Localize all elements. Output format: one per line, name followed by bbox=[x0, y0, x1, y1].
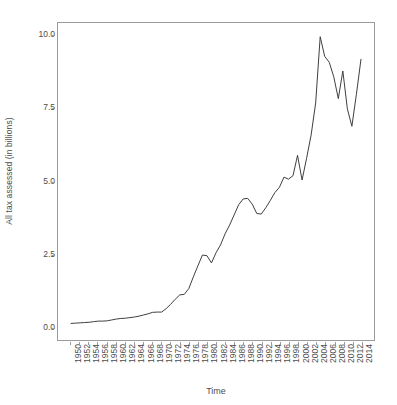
x-tick-mark bbox=[353, 342, 354, 345]
x-tick-mark bbox=[225, 342, 226, 345]
y-axis-title: All tax assessed (in billions) bbox=[0, 0, 18, 341]
x-tick-mark bbox=[216, 342, 217, 345]
y-axis-tick-labels: 0.02.55.07.510.0 bbox=[18, 0, 55, 341]
x-tick-mark bbox=[243, 342, 244, 345]
x-tick-mark bbox=[252, 342, 253, 345]
y-tick-mark bbox=[52, 182, 55, 183]
x-tick-mark bbox=[280, 342, 281, 345]
x-tick-mark bbox=[262, 342, 263, 345]
x-tick-mark bbox=[79, 342, 80, 345]
data-series-line bbox=[71, 37, 361, 324]
y-tick-mark bbox=[52, 108, 55, 109]
x-tick-mark bbox=[152, 342, 153, 345]
x-tick-label: 1950 bbox=[74, 344, 83, 363]
line-chart-svg bbox=[58, 23, 374, 340]
x-axis-tick-labels: 1950195219541956195819601962196419661968… bbox=[57, 342, 375, 384]
x-tick-mark bbox=[125, 342, 126, 345]
y-tick-label: 2.5 bbox=[21, 250, 55, 259]
x-tick-mark bbox=[271, 342, 272, 345]
y-tick-label: 0.0 bbox=[21, 323, 55, 332]
x-tick-label: 1968 bbox=[156, 344, 165, 363]
x-tick-label: 1964 bbox=[137, 344, 146, 363]
x-tick-mark bbox=[189, 342, 190, 345]
y-tick-mark bbox=[52, 328, 55, 329]
x-tick-mark bbox=[134, 342, 135, 345]
x-tick-mark bbox=[143, 342, 144, 345]
y-axis-title-label: All tax assessed (in billions) bbox=[4, 117, 14, 224]
x-tick-label: 2002 bbox=[311, 344, 320, 363]
x-tick-label: 1998 bbox=[292, 344, 301, 363]
x-tick-label: 1966 bbox=[147, 344, 156, 363]
y-tick-label: 5.0 bbox=[21, 177, 55, 186]
y-tick-label: 10.0 bbox=[21, 30, 55, 39]
x-tick-mark bbox=[170, 342, 171, 345]
x-tick-mark bbox=[289, 342, 290, 345]
x-tick-mark bbox=[325, 342, 326, 345]
x-tick-mark bbox=[198, 342, 199, 345]
y-tick-mark bbox=[52, 35, 55, 36]
x-tick-mark bbox=[88, 342, 89, 345]
x-tick-label: 2004 bbox=[320, 344, 329, 363]
x-tick-mark bbox=[316, 342, 317, 345]
x-tick-label: 2014 bbox=[365, 344, 374, 363]
x-tick-mark bbox=[362, 342, 363, 345]
y-tick-mark bbox=[52, 255, 55, 256]
x-tick-label: 1986 bbox=[238, 344, 247, 363]
x-tick-mark bbox=[344, 342, 345, 345]
chart-figure: All tax assessed (in billions) 0.02.55.0… bbox=[0, 0, 397, 405]
x-tick-mark bbox=[298, 342, 299, 345]
x-tick-mark bbox=[97, 342, 98, 345]
x-tick-mark bbox=[307, 342, 308, 345]
x-tick-label: 1984 bbox=[229, 344, 238, 363]
x-tick-label: 1982 bbox=[220, 344, 229, 363]
x-tick-mark bbox=[180, 342, 181, 345]
y-tick-label: 7.5 bbox=[21, 103, 55, 112]
x-tick-mark bbox=[70, 342, 71, 345]
x-tick-label: 1952 bbox=[83, 344, 92, 363]
x-tick-mark bbox=[335, 342, 336, 345]
x-tick-mark bbox=[116, 342, 117, 345]
x-tick-mark bbox=[207, 342, 208, 345]
x-tick-mark bbox=[107, 342, 108, 345]
x-tick-label: 2000 bbox=[302, 344, 311, 363]
x-tick-mark bbox=[161, 342, 162, 345]
x-axis-title: Time bbox=[57, 386, 375, 396]
x-tick-mark bbox=[234, 342, 235, 345]
plot-panel bbox=[57, 22, 375, 341]
x-tick-label: 1980 bbox=[210, 344, 219, 363]
